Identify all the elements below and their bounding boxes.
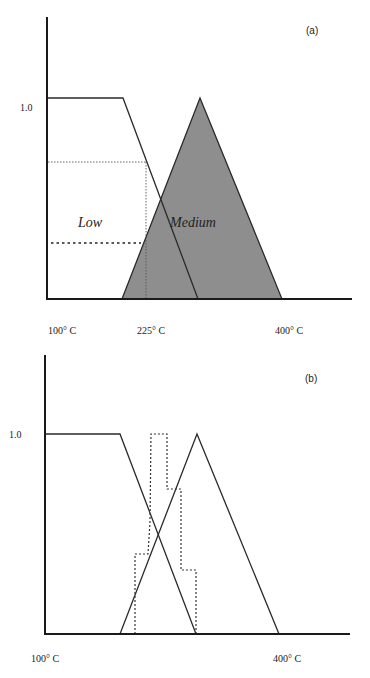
- panel-b: (b) 1.0 100° C 400° C: [9, 355, 350, 664]
- y-tick-1: 1.0: [9, 429, 22, 440]
- fuzzy-membership-figure: (a) 1.0 Low Medium 100° C 225° C 400° C …: [0, 0, 370, 678]
- x-tick-225: 225° C: [137, 325, 165, 336]
- low-trapezoid: [45, 434, 196, 634]
- step-distribution: [135, 434, 196, 634]
- x-tick-100: 100° C: [48, 325, 76, 336]
- y-tick-1: 1.0: [20, 102, 33, 113]
- medium-label: Medium: [169, 215, 216, 230]
- panel-tag: (a): [306, 25, 318, 36]
- panel-tag: (b): [305, 373, 317, 384]
- x-tick-100: 100° C: [31, 653, 59, 664]
- panel-a: (a) 1.0 Low Medium 100° C 225° C 400° C: [20, 17, 352, 336]
- medium-triangle: [120, 434, 279, 634]
- low-label: Low: [77, 215, 103, 230]
- x-tick-400: 400° C: [273, 653, 301, 664]
- x-tick-400: 400° C: [275, 325, 303, 336]
